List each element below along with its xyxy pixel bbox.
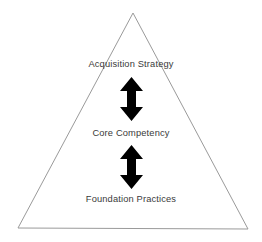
pyramid-diagram: Acquisition Strategy Core Competency Fou… [0,0,262,242]
tier-label-core-competency: Core Competency [0,128,262,139]
arrow-glyph-lower [120,145,143,189]
tier-label-foundation-practices: Foundation Practices [0,194,262,205]
double-headed-vertical-arrow-icon-upper [0,76,262,122]
tier-label-acquisition-strategy: Acquisition Strategy [0,59,262,70]
double-headed-vertical-arrow-icon-lower [0,144,262,190]
arrow-glyph-upper [120,77,143,121]
